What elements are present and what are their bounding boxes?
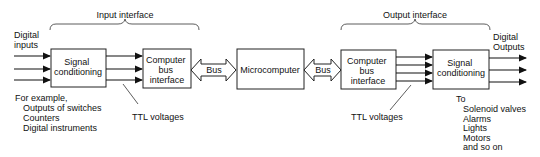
bus-left-label: Bus xyxy=(206,65,222,75)
microcomputer-label: Microcomputer xyxy=(240,65,300,75)
output-interface-label: Output interface xyxy=(383,10,447,20)
output-destinations: To Solenoid valves Alarms Lights Motors … xyxy=(456,94,529,152)
digital-inputs-label: Digital inputs xyxy=(14,30,42,50)
input-interface-brace xyxy=(50,19,199,30)
bus-right-label: Bus xyxy=(315,65,331,75)
ttl-leader-input xyxy=(123,84,138,104)
ttl-lines-output xyxy=(396,57,432,81)
output-interface-brace xyxy=(341,19,490,30)
ttl-lines-input xyxy=(106,56,142,80)
input-examples: For example, Outputs of switches Counter… xyxy=(15,93,104,133)
ttl-voltages-input-label: TTL voltages xyxy=(132,112,184,122)
input-interface-label: Input interface xyxy=(96,10,153,20)
ttl-voltages-output-label: TTL voltages xyxy=(351,112,403,122)
digital-io-diagram: Input interface Output interface Digital… xyxy=(0,0,540,157)
input-signal-lines xyxy=(14,56,50,80)
output-signal-lines xyxy=(489,58,526,82)
digital-outputs-label: Digital Outputs xyxy=(493,32,525,52)
